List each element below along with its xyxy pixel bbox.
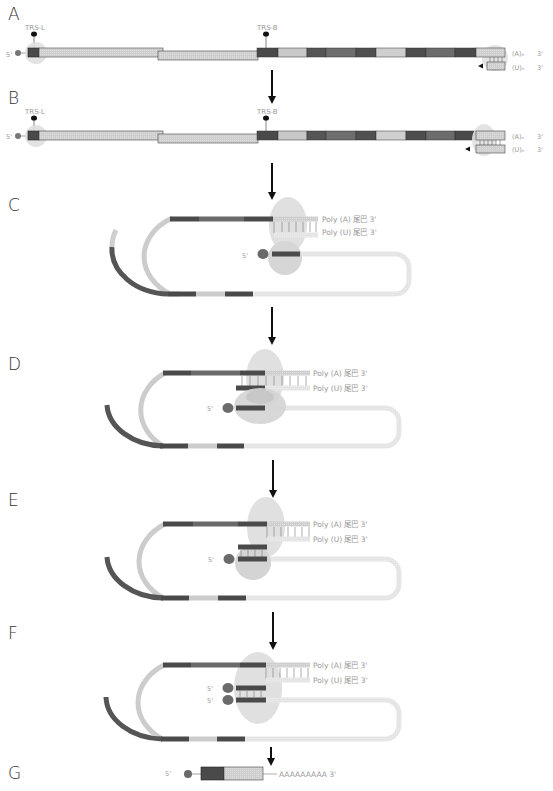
trs-b-pin-icon <box>263 31 269 36</box>
trs-b-pin-icon <box>263 115 269 120</box>
poly-a-tail-label: AAAAAAAAA 3' <box>279 770 336 779</box>
panel-d: D Poly (A) 尾巴 3' Poly (U) 尾巴 3' 5' <box>8 349 399 446</box>
poly-a-segment <box>476 48 505 57</box>
poly-a-tail-label: Poly (A) 尾巴 3' <box>313 520 367 529</box>
poly-u-label: (U)ₙ <box>512 146 525 154</box>
cap-icon <box>223 683 234 693</box>
five-prime-label: 5' <box>207 405 213 413</box>
replicase-complex <box>268 241 302 275</box>
five-prime-label: 5' <box>6 51 12 59</box>
leader-segment <box>28 48 39 57</box>
panel-f: F Poly (A) 尾巴 3' Poly (U) 尾巴 3' 5' 5' <box>8 623 399 739</box>
poly-a-label: (A)ₙ <box>512 50 525 58</box>
three-prime-top-label: 3' <box>537 133 543 141</box>
three-prime-bottom-label: 3' <box>537 146 543 154</box>
poly-u-tail-label: Poly (U) 尾巴 3' <box>313 676 368 685</box>
cap-icon <box>15 50 21 56</box>
panel-label-a: A <box>8 4 20 24</box>
poly-u-segment <box>487 62 505 70</box>
cap-icon <box>15 133 21 139</box>
leader-segment <box>201 767 224 780</box>
poly-u-label: (U)ₙ <box>512 64 525 72</box>
panel-g: G 5' AAAAAAAAA 3' <box>8 763 336 783</box>
panel-label-d: D <box>8 354 21 374</box>
poly-a-tail-label: Poly (A) 尾巴 3' <box>313 369 367 378</box>
cap-icon <box>184 770 192 778</box>
panel-label-f: F <box>8 623 18 643</box>
panel-e: E Poly (A) 尾巴 3' Poly (U) 尾巴 3' 5' <box>8 490 399 598</box>
poly-u-tail-label: Poly (U) 尾巴 3' <box>322 228 377 237</box>
trs-l-pin-icon <box>31 31 37 36</box>
orf1b-segment <box>158 51 258 60</box>
poly-a-label: (A)ₙ <box>512 133 525 141</box>
five-prime-label: 5' <box>208 556 214 564</box>
three-prime-bottom-label: 3' <box>537 64 543 72</box>
panel-label-g: G <box>8 763 21 783</box>
trs-l-pin-icon <box>31 115 37 120</box>
three-prime-top-label: 3' <box>537 50 543 58</box>
poly-u-tail-label: Poly (U) 尾巴 3' <box>313 384 368 393</box>
panel-c: C Poly (A) 尾巴 3' Poly (U) 尾巴 3' 5' <box>8 195 409 294</box>
poly-u-direction-arrow-icon <box>465 147 470 152</box>
poly-u-direction-arrow-icon <box>478 64 483 69</box>
poly-u-tail-label: Poly (U) 尾巴 3' <box>313 535 368 544</box>
cap-icon <box>223 695 234 705</box>
cap-icon <box>258 249 269 259</box>
trs-l-label: TRS-L <box>24 24 45 32</box>
trs-b-label: TRS-B <box>256 108 278 116</box>
orf1a-segment <box>39 48 163 57</box>
diagram-canvas: A TRS-L 5' TRS-B <box>0 0 553 791</box>
cap-icon <box>223 403 234 413</box>
trs-b-label: TRS-B <box>256 24 278 32</box>
panel-a: A TRS-L 5' TRS-B <box>6 4 543 72</box>
panel-b: B TRS-L 5' TRS-B (A)ₙ <box>6 88 543 156</box>
trs-l-label: TRS-L <box>24 108 45 116</box>
five-prime-label: 5' <box>242 252 248 260</box>
panel-label-e: E <box>8 490 19 510</box>
leader-segment <box>28 131 39 140</box>
poly-a-tail-label: Poly (A) 尾巴 3' <box>313 661 367 670</box>
panel-label-b: B <box>8 88 19 108</box>
panel-label-c: C <box>8 195 20 215</box>
five-prime-label: 5' <box>6 133 12 141</box>
cap-icon <box>224 554 235 564</box>
five-prime-label: 5' <box>165 770 171 778</box>
five-prime-label-2: 5' <box>207 697 213 705</box>
subgenomic-orf-segment <box>224 767 263 780</box>
subgenomic-segments <box>257 48 476 57</box>
five-prime-label-1: 5' <box>207 685 213 693</box>
poly-a-tail-label: Poly (A) 尾巴 3' <box>322 215 376 224</box>
